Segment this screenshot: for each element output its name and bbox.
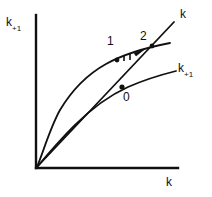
point-label-0: 0 (123, 91, 130, 103)
x-axis-label: k (166, 176, 172, 188)
y-axis-label: k+1 (6, 16, 21, 31)
lower-curve-label: k+1 (178, 62, 193, 77)
upper-production-curve (37, 43, 170, 167)
plot-canvas (0, 0, 212, 197)
y-axis-label-subscript: +1 (12, 24, 21, 33)
point-label-1: 1 (107, 35, 114, 47)
figure-container: k+1 k k k+1 0 1 2 (0, 0, 212, 197)
point-marker-1 (115, 58, 120, 63)
diagonal-line-label: k (180, 8, 186, 20)
point-marker-2 (150, 44, 155, 49)
forty-five-degree-line (37, 22, 174, 167)
point-label-2: 2 (140, 30, 147, 42)
point-marker-0 (119, 84, 124, 89)
lower-curve-label-subscript: +1 (184, 70, 193, 79)
lower-production-curve (37, 71, 176, 167)
